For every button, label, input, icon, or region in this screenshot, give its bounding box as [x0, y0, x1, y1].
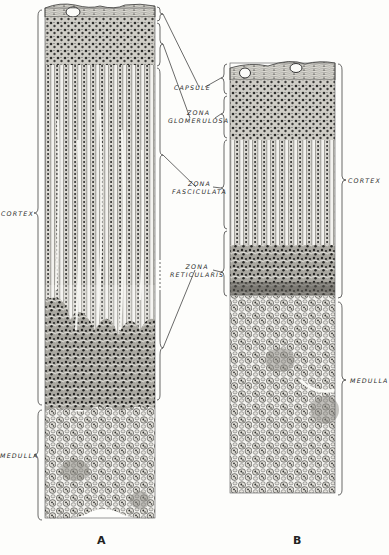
label-panel-b-medulla: MEDULLA — [350, 377, 389, 385]
label-zona-reticularis: ZONA RETICULARIS — [170, 263, 224, 278]
panel-b-zona-glomerulosa — [230, 80, 335, 140]
panel-a-capsule — [45, 4, 155, 17]
label-zona-reticularis-line1: ZONA — [170, 263, 224, 271]
label-zona-fasciculata: ZONA FASCICULATA — [172, 180, 227, 195]
panel-a-capsule-vessel — [66, 7, 80, 17]
panel-a-section — [45, 4, 155, 519]
panel-a-zone-brackets — [157, 7, 199, 400]
label-panel-a-cortex: CORTEX — [1, 210, 34, 218]
panel-a-left-brackets — [34, 10, 42, 520]
label-zona-fasciculata-line1: ZONA — [172, 180, 227, 188]
panel-b-medulla — [230, 296, 335, 493]
panel-b-right-brackets — [338, 64, 346, 495]
panel-letter-b: B — [293, 534, 301, 547]
label-zona-glomerulosa: ZONA GLOMERULOSA — [168, 109, 229, 124]
figure: CORTEX MEDULLA CAPSULE ZONA GLOMERULOSA … — [0, 0, 389, 555]
label-zona-fasciculata-line2: FASCICULATA — [172, 188, 227, 196]
panel-letter-a: A — [97, 534, 106, 547]
label-zona-glomerulosa-line2: GLOMERULOSA — [168, 117, 229, 125]
panel-b-zona-fasciculata — [230, 140, 335, 245]
panel-b-section — [230, 61, 339, 493]
label-panel-a-medulla: MEDULLA — [0, 452, 39, 460]
label-zona-reticularis-line2: RETICULARIS — [170, 271, 224, 279]
label-capsule-text: CAPSULE — [174, 84, 211, 92]
panel-a-zona-glomerulosa — [45, 17, 155, 65]
label-panel-b-cortex: CORTEX — [348, 177, 381, 185]
label-zona-glomerulosa-line1: ZONA — [168, 109, 229, 117]
label-capsule: CAPSULE — [174, 84, 211, 92]
